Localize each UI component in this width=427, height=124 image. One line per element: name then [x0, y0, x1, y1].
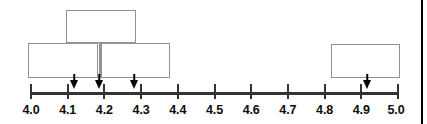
- marker-arrow-1: [70, 80, 78, 89]
- axis-tick-label-5-0: 5.0: [387, 103, 404, 117]
- axis-tick-4-0: [30, 84, 32, 99]
- axis-tick-4-3: [140, 84, 142, 99]
- axis-tick-label-4-6: 4.6: [243, 103, 260, 117]
- number-line-figure: 4.0 4.1 4.2 4.3 4.4 4.5 4.6 4.7 4.8 4.9 …: [0, 0, 427, 124]
- callout-leader-top: [99, 43, 101, 78]
- axis-tick-label-4-9: 4.9: [353, 103, 370, 117]
- axis-tick-label-4-1: 4.1: [59, 103, 76, 117]
- axis-tick-4-8: [324, 84, 326, 99]
- axis-tick-label-4-7: 4.7: [279, 103, 296, 117]
- callout-box-middle-label: [102, 44, 169, 77]
- marker-arrow-4: [363, 80, 371, 89]
- axis-tick-5-0: [397, 84, 399, 99]
- axis-tick-label-4-2: 4.2: [96, 103, 113, 117]
- axis-tick-4-9: [360, 84, 362, 99]
- axis-tick-label-4-5: 4.5: [206, 103, 223, 117]
- callout-box-left-label: [29, 44, 97, 77]
- axis-tick-4-4: [177, 84, 179, 99]
- marker-arrow-3: [130, 80, 138, 89]
- axis-tick-4-1: [67, 84, 69, 99]
- axis-tick-label-4-0: 4.0: [22, 103, 39, 117]
- callout-box-right[interactable]: [331, 44, 400, 78]
- callout-box-top[interactable]: [66, 10, 136, 43]
- page-edge-rule: [421, 0, 423, 124]
- callout-box-right-label: [332, 45, 399, 77]
- callout-box-top-label: [67, 11, 135, 42]
- axis-tick-label-4-4: 4.4: [169, 103, 186, 117]
- axis-tick-4-6: [250, 84, 252, 99]
- callout-box-left[interactable]: [28, 43, 98, 78]
- axis-tick-4-5: [214, 84, 216, 99]
- callout-box-middle[interactable]: [101, 43, 170, 78]
- axis-tick-4-2: [103, 84, 105, 99]
- axis-tick-4-7: [287, 84, 289, 99]
- axis-tick-label-4-3: 4.3: [133, 103, 150, 117]
- marker-arrow-2: [95, 80, 103, 89]
- axis-tick-label-4-8: 4.8: [316, 103, 333, 117]
